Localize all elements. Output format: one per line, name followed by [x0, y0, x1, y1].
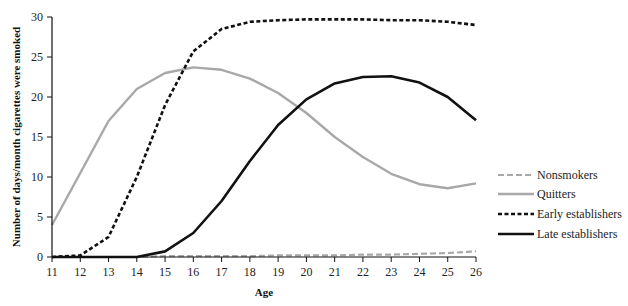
x-tick-label: 12	[74, 265, 86, 279]
x-tick-label: 19	[272, 265, 284, 279]
x-tick-label: 13	[103, 265, 115, 279]
x-tick-label: 15	[159, 265, 171, 279]
x-tick-label: 14	[131, 265, 143, 279]
y-axis-title: Number of days/month cigarettes were smo…	[10, 27, 22, 247]
x-tick-label: 18	[244, 265, 256, 279]
x-tick-label: 21	[329, 265, 341, 279]
x-tick-label: 16	[187, 265, 199, 279]
x-tick-label: 24	[413, 265, 425, 279]
y-tick-label: 0	[37, 250, 43, 264]
series-quitters	[52, 67, 476, 225]
legend-item-label: Quitters	[537, 187, 576, 201]
x-tick-label: 17	[216, 265, 228, 279]
series-layer	[52, 19, 476, 257]
y-tick-label: 25	[31, 50, 43, 64]
series-late-establishers	[52, 76, 476, 257]
x-tick-label: 25	[442, 265, 454, 279]
legend-item-label: Nonsmokers	[537, 168, 598, 182]
x-tick-label: 26	[470, 265, 482, 279]
axes: 0510152025301112131415161718192021222324…	[31, 10, 482, 279]
legend: NonsmokersQuittersEarly establishersLate…	[498, 168, 622, 241]
y-tick-label: 20	[31, 90, 43, 104]
series-early-establishers	[52, 19, 476, 257]
x-tick-label: 20	[300, 265, 312, 279]
x-tick-label: 22	[357, 265, 369, 279]
legend-item-label: Late establishers	[537, 227, 618, 241]
x-axis-title: Age	[255, 286, 273, 298]
line-chart: 0510152025301112131415161718192021222324…	[0, 0, 628, 306]
y-tick-label: 15	[31, 130, 43, 144]
x-tick-label: 23	[385, 265, 397, 279]
legend-item-label: Early establishers	[537, 207, 622, 221]
y-tick-label: 5	[37, 210, 43, 224]
y-tick-label: 10	[31, 170, 43, 184]
y-tick-label: 30	[31, 10, 43, 24]
x-tick-label: 11	[46, 265, 58, 279]
